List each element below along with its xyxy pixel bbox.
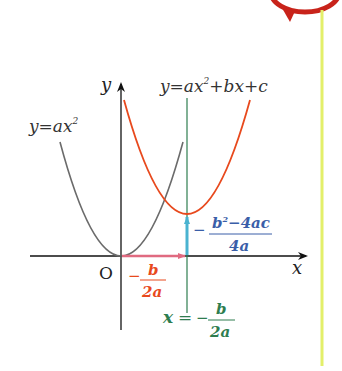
svg-text:4a: 4a [229,237,249,255]
x-axis-label: x [292,257,302,278]
origin-label: O [99,263,113,283]
svg-text:2a: 2a [141,283,162,301]
parabola-diagram: y x O y=ax2 y=ax2+bx+c − b 2a − b2−4ac 4… [0,0,342,371]
svg-text:=: = [178,307,192,327]
svg-text:x: x [162,307,174,327]
svg-text:−: − [196,309,209,327]
svg-text:b: b [148,261,159,279]
svg-text:−: − [128,267,141,285]
speech-bubble-icon [271,0,339,22]
svg-text:y=ax2+bx+c: y=ax2+bx+c [159,76,268,96]
y-axis-label: y [100,74,112,95]
translated-parabola-label: y=ax2+bx+c [159,76,268,96]
svg-text:−: − [193,221,206,239]
base-parabola-label: y=ax2 [28,116,79,136]
svg-text:2a: 2a [209,323,230,341]
svg-text:b2−4ac: b2−4ac [212,214,270,232]
axis-of-symmetry-label: x = − b 2a [162,300,235,341]
svg-text:b: b [216,300,227,318]
horizontal-shift-label: − b 2a [128,261,166,301]
vertical-shift-label: − b2−4ac 4a [193,214,272,255]
svg-text:y=ax2: y=ax2 [28,116,79,136]
